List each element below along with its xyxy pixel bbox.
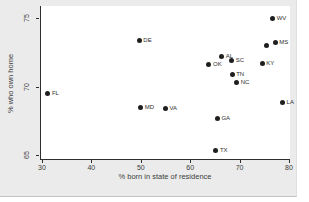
- data-point-KY: [260, 61, 265, 66]
- data-point-label: MD: [145, 104, 154, 111]
- data-point-WV: [270, 16, 275, 21]
- x-tick-mark: [240, 160, 241, 163]
- data-point-label: WV: [277, 15, 287, 22]
- data-point-OK: [206, 62, 211, 67]
- x-tick-label: 70: [230, 164, 250, 172]
- x-tick-label: 50: [131, 164, 151, 172]
- data-point-label: LA: [287, 99, 294, 106]
- x-axis-title: % born in state of residence: [40, 172, 290, 181]
- y-tick-label: 75: [23, 10, 31, 26]
- data-point-MS: [273, 40, 278, 45]
- data-point-label: DE: [143, 37, 151, 44]
- y-tick-mark: [36, 87, 39, 88]
- data-point-DE: [137, 38, 142, 43]
- x-tick-mark: [42, 160, 43, 163]
- data-point-TX: [213, 148, 218, 153]
- x-tick-label: 30: [32, 164, 52, 172]
- data-point-VA: [163, 106, 168, 111]
- data-point-TN: [230, 72, 235, 77]
- x-tick-mark: [91, 160, 92, 163]
- data-point-MD: [138, 105, 143, 110]
- x-tick-mark: [289, 160, 290, 163]
- data-point-label: SC: [236, 57, 244, 64]
- data-point-FL: [45, 91, 50, 96]
- data-point-label: KY: [266, 60, 274, 67]
- y-tick-label: 70: [23, 79, 31, 95]
- data-point-label: TX: [220, 147, 228, 154]
- data-point-SC: [229, 58, 234, 63]
- x-tick-mark: [141, 160, 142, 163]
- data-point-AL: [219, 54, 224, 59]
- data-point-label: MS: [279, 39, 288, 46]
- y-tick-mark: [36, 155, 39, 156]
- data-point-label: TN: [236, 71, 244, 78]
- data-point-label: OK: [213, 61, 222, 68]
- x-tick-label: 60: [180, 164, 200, 172]
- data-point-unlabeled: [264, 43, 269, 48]
- x-tick-label: 80: [279, 164, 299, 172]
- y-tick-label: 65: [23, 147, 31, 163]
- data-point-GA: [215, 116, 220, 121]
- plot-area: WVDEMSALSCKYOKTNNCFLLAMDVAGATX: [40, 6, 290, 160]
- y-tick-mark: [36, 18, 39, 19]
- x-tick-label: 40: [81, 164, 101, 172]
- data-point-label: FL: [52, 90, 59, 97]
- data-point-label: NC: [241, 79, 250, 86]
- scatter-plot-figure: WVDEMSALSCKYOKTNNCFLLAMDVAGATX 304050607…: [0, 0, 297, 197]
- data-point-LA: [280, 100, 285, 105]
- data-point-label: GA: [221, 115, 230, 122]
- data-point-NC: [234, 80, 239, 85]
- data-point-label: VA: [170, 105, 178, 112]
- y-axis-title: % who own home: [6, 47, 15, 121]
- x-tick-mark: [190, 160, 191, 163]
